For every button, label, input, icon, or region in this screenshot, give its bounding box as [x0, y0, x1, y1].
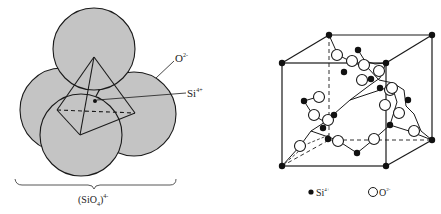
group-brace — [15, 179, 176, 189]
figure-canvas: O2- Si4+ (SiO4)4- — [0, 0, 441, 214]
oxygen-atoms — [295, 50, 420, 152]
sio4-formula-label: (SiO4)4- — [78, 193, 108, 207]
oxygen-label: O2- — [175, 52, 188, 64]
legend: Si4+ O2- — [308, 187, 390, 198]
oxygen-leader-line — [156, 61, 174, 78]
oxygen-sphere-top — [53, 8, 135, 90]
unit-cell-figure — [279, 32, 435, 169]
legend-si-label: Si4+ — [316, 187, 330, 198]
sio4-tetrahedron-figure — [20, 8, 186, 176]
legend-o-circle-icon — [369, 188, 378, 197]
legend-o-label: O2- — [379, 187, 391, 198]
silicon-atom-dot — [93, 99, 97, 103]
legend-si-dot-icon — [308, 189, 313, 194]
silicon-label: Si4+ — [187, 87, 203, 99]
